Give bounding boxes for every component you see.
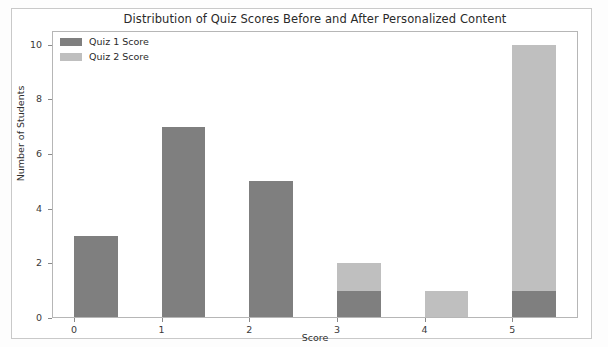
x-tick-label: 0 (62, 324, 86, 335)
x-tick-mark (337, 318, 338, 322)
figure-canvas: Distribution of Quiz Scores Before and A… (0, 0, 608, 347)
y-tick-label: 10 (16, 39, 42, 50)
x-axis-label: Score (52, 332, 578, 343)
y-tick-label: 2 (16, 257, 42, 268)
x-tick-label: 2 (237, 324, 261, 335)
legend-swatch-quiz-1-icon (60, 38, 82, 46)
y-axis-label: Number of Students (15, 74, 26, 194)
chart-legend: Quiz 1 Score Quiz 2 Score (60, 36, 149, 62)
legend-label-quiz-2: Quiz 2 Score (89, 51, 149, 62)
y-tick-label: 0 (16, 312, 42, 323)
x-tick-label: 4 (413, 324, 437, 335)
x-tick-mark (74, 318, 75, 322)
plot-frame (52, 31, 578, 318)
x-tick-mark (425, 318, 426, 322)
x-tick-label: 5 (500, 324, 524, 335)
x-tick-mark (512, 318, 513, 322)
legend-label-quiz-1: Quiz 1 Score (89, 36, 149, 47)
legend-swatch-quiz-2-icon (60, 53, 82, 61)
x-tick-label: 1 (150, 324, 174, 335)
x-tick-mark (249, 318, 250, 322)
chart-title: Distribution of Quiz Scores Before and A… (52, 12, 578, 26)
x-tick-mark (162, 318, 163, 322)
legend-item-quiz-2: Quiz 2 Score (60, 51, 149, 62)
x-tick-label: 3 (325, 324, 349, 335)
y-tick-label: 6 (16, 148, 42, 159)
y-tick-mark (48, 318, 52, 319)
y-tick-label: 4 (16, 203, 42, 214)
y-tick-label: 8 (16, 93, 42, 104)
legend-item-quiz-1: Quiz 1 Score (60, 36, 149, 47)
